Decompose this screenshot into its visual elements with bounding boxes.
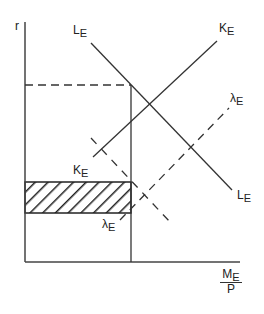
lambda-bottom-label: λE [102,218,115,230]
x-axis-label: ME P [220,268,242,296]
le-top-label: LE [73,24,87,36]
label-sub: E [80,27,87,39]
label-sub: E [244,192,251,204]
x-axis-numerator: ME [220,268,242,283]
le-bottom-label: LE [237,189,251,201]
x-axis-denominator: P [220,283,242,296]
label-sub: E [236,95,243,107]
numerator-sub: E [232,271,239,283]
le-curve [91,43,232,190]
label-sub: E [227,25,234,37]
shaded-region [25,182,131,213]
ke-bottom-label: KE [73,164,88,176]
lambda-curve [120,108,229,220]
label-main: K [219,21,227,35]
label-main: K [73,163,81,177]
label-main: L [237,188,244,202]
label-main: L [73,23,80,37]
lambda-right-label: λE [230,92,243,104]
label-sub: E [108,221,115,233]
y-axis-label: r [15,20,19,32]
label-sub: E [81,167,88,179]
numerator-main: M [222,267,232,281]
ke-top-label: KE [219,22,234,34]
